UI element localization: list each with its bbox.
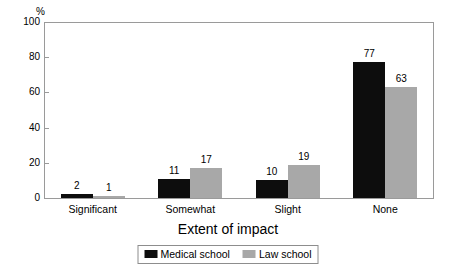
bar-value-label: 11 [158,166,190,176]
y-axis-tick-label: 0 [0,193,40,203]
x-axis-category-label: Significant [44,203,142,215]
x-axis-category-label: Somewhat [142,203,240,215]
bar [61,194,93,198]
y-axis-tick-label: 100 [0,17,40,27]
bar-value-label: 63 [385,74,417,84]
bar-value-label: 17 [190,155,222,165]
bar [385,87,417,198]
bar-value-label: 1 [93,183,125,193]
y-axis-tick-label: 60 [0,87,40,97]
law-swatch [243,250,256,258]
y-axis-tick-label: 20 [0,158,40,168]
bar-value-label: 77 [353,49,385,59]
bar-group: 1019 [256,22,320,198]
legend-item[interactable]: Law school [243,248,312,260]
bar [288,165,320,198]
bar-value-label: 2 [61,181,93,191]
bar-group: 21 [61,22,125,198]
bar-group: 7763 [353,22,417,198]
x-axis-title: Extent of impact [0,221,456,237]
medical-swatch [145,250,158,258]
x-axis-category-labels: SignificantSomewhatSlightNone [44,203,434,217]
bar-chart: % 020406080100 21111710197763 Significan… [0,0,456,274]
bar-value-label: 19 [288,152,320,162]
x-axis-category-label: Slight [239,203,337,215]
bar [353,62,385,198]
legend-item[interactable]: Medical school [145,248,230,260]
bar [158,179,190,198]
bar [190,168,222,198]
bar [256,180,288,198]
legend-item-label: Law school [259,248,312,260]
x-axis-category-label: None [337,203,435,215]
bar-value-label: 10 [256,167,288,177]
y-axis-tick-label: 80 [0,52,40,62]
bar-group: 1117 [158,22,222,198]
bar-series-layer: 21111710197763 [44,22,434,198]
legend: Medical schoolLaw school [138,245,319,264]
y-axis-tick-label: 40 [0,123,40,133]
bar [93,196,125,198]
legend-item-label: Medical school [161,248,230,260]
